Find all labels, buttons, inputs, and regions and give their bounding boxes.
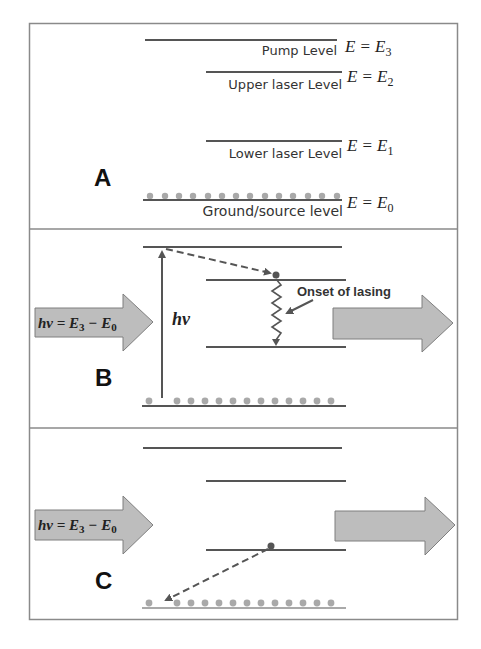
lasing-transition-arrowhead [272, 339, 280, 346]
lower-laser-level-label: Lower laser Level [229, 146, 342, 161]
pump-level-equation: E=E3 [344, 37, 391, 59]
onset-pointer-arrow [287, 300, 313, 313]
pump-level-label: Pump Level [262, 43, 337, 58]
electron-upper-level [273, 272, 280, 279]
ground-level-equation: E=E0 [346, 193, 393, 215]
lasing-transition-wave [272, 279, 281, 340]
ground-atoms-b [146, 398, 335, 405]
pump-photon-label: hν [172, 309, 191, 329]
lower-laser-level-equation: E=E1 [346, 136, 393, 158]
panel-letter-a: A [94, 164, 111, 191]
ground-atoms-c [146, 600, 335, 607]
output-laser-arrow-c [335, 497, 455, 555]
nonradiative-decay-arrow-c [166, 549, 268, 600]
panel-a: Pump Level E=E3 Upper laser Level E=E2 L… [94, 37, 393, 219]
input-pump-arrow-c-label: hν = E3 − E0 [38, 517, 117, 535]
upper-laser-level-equation: E=E2 [346, 67, 393, 89]
panel-b: hν = E3 − E0 hν Onset of lasing B [35, 247, 453, 406]
ground-level-label: Ground/source level [203, 203, 343, 219]
upper-laser-level-label: Upper laser Level [228, 77, 342, 92]
electron-lower-level [268, 543, 275, 550]
onset-of-lasing-label: Onset of lasing [297, 284, 391, 299]
output-laser-arrow-b [333, 295, 453, 352]
laser-diagram: Pump Level E=E3 Upper laser Level E=E2 L… [0, 0, 481, 649]
nonradiative-decay-arrow-b [166, 249, 270, 273]
input-pump-arrow-b-label: hν = E3 − E0 [38, 315, 117, 333]
panel-letter-c: C [95, 567, 112, 594]
ground-atoms-a [147, 193, 340, 199]
panel-c: hν = E3 − E0 C [35, 448, 455, 608]
panel-letter-b: B [95, 364, 112, 391]
